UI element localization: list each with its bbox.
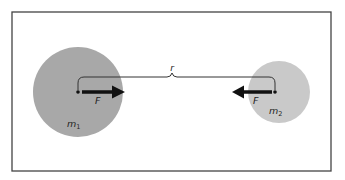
gravitation-diagram: r F F m1 m2: [0, 0, 345, 180]
force-label-m2: F: [253, 95, 259, 106]
mass-1-center-dot: [76, 90, 80, 94]
mass-2-subscript: 2: [278, 110, 282, 118]
force-label-m1: F: [95, 95, 101, 106]
mass-1-subscript: 1: [76, 123, 80, 131]
mass-2-center-dot: [273, 90, 277, 94]
mass-1-symbol: m: [67, 118, 76, 129]
mass-2-symbol: m: [269, 105, 278, 116]
